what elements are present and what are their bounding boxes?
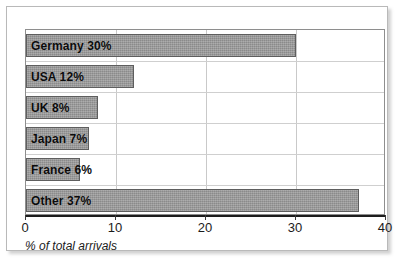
x-tick-label-20: 20	[198, 220, 212, 235]
gridline-x-20	[206, 30, 207, 214]
x-tick-label-10: 10	[108, 220, 122, 235]
x-tick-label-30: 30	[288, 220, 302, 235]
bar-row: Other 37%	[26, 189, 386, 212]
bar-row: Germany 30%	[26, 34, 386, 57]
bar-label-france: France 6%	[31, 164, 92, 176]
bar-row: UK 8%	[26, 96, 386, 119]
bar-label-other: Other 37%	[31, 195, 91, 207]
x-axis-caption: % of total arrivals	[25, 239, 117, 253]
gridline-x-30	[296, 30, 297, 214]
x-tick-label-40: 40	[378, 220, 392, 235]
category-separator	[26, 123, 384, 124]
chart-figure: Germany 30%USA 12%UK 8%Japan 7%France 6%…	[0, 0, 404, 267]
bar-label-usa: USA 12%	[31, 71, 84, 83]
x-tick-label-0: 0	[21, 220, 28, 235]
plot-area: Germany 30%USA 12%UK 8%Japan 7%France 6%…	[25, 29, 385, 215]
bar-label-japan: Japan 7%	[31, 133, 87, 145]
bar-row: Japan 7%	[26, 127, 386, 150]
bar-label-uk: UK 8%	[31, 102, 70, 114]
bar-row: USA 12%	[26, 65, 386, 88]
category-separator	[26, 92, 384, 93]
category-separator	[26, 185, 384, 186]
category-separator	[26, 154, 384, 155]
bar-row: France 6%	[26, 158, 386, 181]
category-separator	[26, 61, 384, 62]
gridline-x-10	[116, 30, 117, 214]
bar-label-germany: Germany 30%	[31, 40, 111, 52]
chart-panel: Germany 30%USA 12%UK 8%Japan 7%France 6%…	[6, 6, 388, 251]
